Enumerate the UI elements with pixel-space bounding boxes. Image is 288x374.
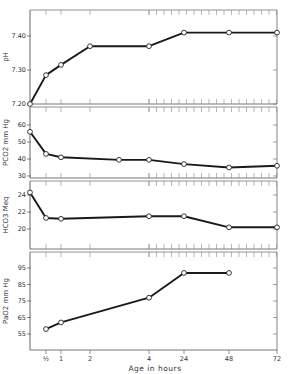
panel-ph: 7.207.307.40pH	[2, 10, 279, 108]
data-point-marker	[147, 157, 152, 162]
x-tick-label: 1	[59, 355, 63, 363]
data-point-marker	[117, 157, 122, 162]
data-point-marker	[182, 271, 187, 276]
series-line	[30, 192, 277, 227]
data-point-marker	[44, 216, 49, 221]
data-point-marker	[59, 320, 64, 325]
panel-pco2: 30405060PCO2 mm Hg	[2, 107, 279, 180]
data-point-marker	[227, 271, 232, 276]
data-point-marker	[275, 30, 280, 35]
data-point-marker	[227, 225, 232, 230]
y-axis-label: pH	[2, 52, 10, 62]
series-line	[30, 33, 277, 104]
y-tick-label: 75	[18, 297, 26, 305]
data-point-marker	[147, 214, 152, 219]
x-tick-label: 24	[180, 355, 188, 363]
y-tick-label: 65	[18, 314, 26, 322]
y-tick-label: 40	[18, 155, 26, 163]
data-point-marker	[182, 162, 187, 167]
x-tick-label: 2	[88, 355, 92, 363]
series-line	[46, 273, 229, 329]
data-point-marker	[182, 214, 187, 219]
y-axis-label: HCO3 Meq	[2, 196, 10, 233]
y-tick-label: 55	[18, 330, 26, 338]
data-point-marker	[227, 165, 232, 170]
y-tick-label: 50	[18, 138, 26, 146]
y-tick-label: 30	[18, 172, 26, 180]
data-point-marker	[59, 216, 64, 221]
y-tick-label: 7.40	[12, 32, 26, 40]
data-point-marker	[44, 327, 49, 332]
x-tick-label: ½	[43, 355, 49, 363]
data-point-marker	[59, 155, 64, 160]
data-point-marker	[88, 44, 93, 49]
y-tick-label: 20	[18, 225, 26, 233]
y-axis-label: PaO2 mm Hg	[2, 278, 10, 324]
data-point-marker	[182, 30, 187, 35]
x-axis: ½124244872Age in hours	[43, 350, 281, 373]
y-tick-label: 60	[18, 121, 26, 129]
series-line	[30, 132, 277, 168]
panel-hco3: 202224HCO3 Meq	[2, 181, 279, 249]
y-tick-label: 7.20	[12, 100, 26, 108]
x-tick-label: 48	[225, 355, 233, 363]
y-tick-label: 24	[18, 191, 26, 199]
data-point-marker	[59, 63, 64, 68]
data-point-marker	[275, 163, 280, 168]
panel-pao2: 5565758595PaO2 mm Hg	[2, 252, 277, 350]
y-tick-label: 85	[18, 281, 26, 289]
data-point-marker	[147, 295, 152, 300]
y-tick-label: 7.30	[12, 66, 26, 74]
data-point-marker	[227, 30, 232, 35]
data-point-marker	[275, 225, 280, 230]
x-axis-label: Age in hours	[128, 364, 181, 373]
x-tick-label: 4	[147, 355, 151, 363]
y-tick-label: 22	[18, 208, 26, 216]
y-tick-label: 95	[18, 264, 26, 272]
chart-svg: 7.207.307.40pH30405060PCO2 mm Hg202224HC…	[0, 0, 288, 374]
data-point-marker	[147, 44, 152, 49]
y-axis-label: PCO2 mm Hg	[2, 119, 10, 166]
x-tick-label: 72	[273, 355, 281, 363]
data-point-marker	[28, 190, 33, 195]
data-point-marker	[44, 73, 49, 78]
blood-gas-chart: 7.207.307.40pH30405060PCO2 mm Hg202224HC…	[0, 0, 288, 374]
data-point-marker	[28, 129, 33, 134]
data-point-marker	[28, 102, 33, 107]
data-point-marker	[44, 152, 49, 157]
